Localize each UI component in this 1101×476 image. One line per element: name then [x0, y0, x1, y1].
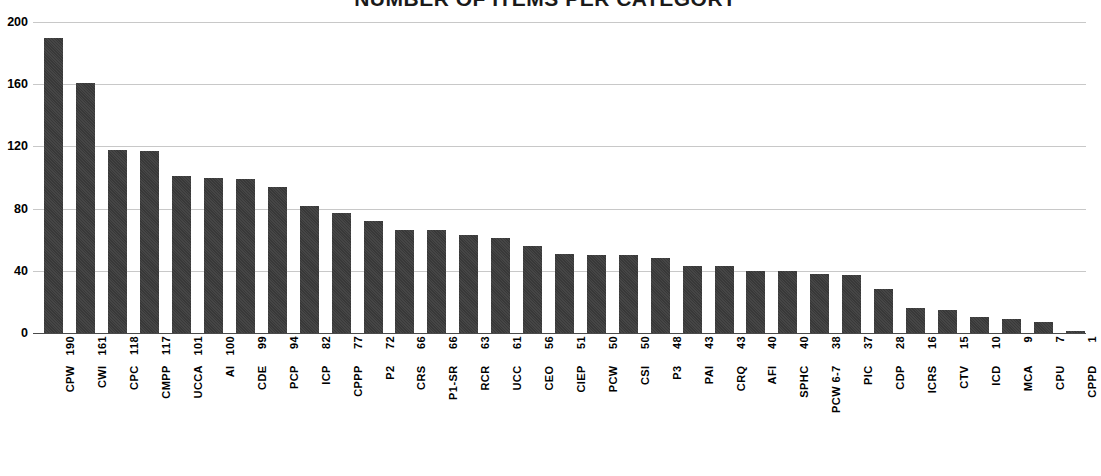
x-axis-tick-label: RCR 63	[475, 336, 495, 466]
bar	[364, 221, 383, 333]
bars-layer	[33, 22, 1086, 333]
chart-title: NUMBER OF ITEMS PER CATEGORY	[0, 0, 1091, 11]
x-axis-tick-label: PCW 50	[603, 336, 623, 466]
x-label-code: P3	[671, 365, 683, 379]
x-label-value: 50	[635, 336, 655, 362]
x-axis-tick-label: UCCA 101	[188, 336, 208, 466]
x-axis-tick-label: CDE 99	[252, 336, 272, 466]
bar	[459, 235, 478, 333]
x-label-value: 82	[316, 336, 336, 362]
x-label-code: AI	[224, 365, 236, 377]
x-axis-tick-label: PAI 43	[699, 336, 719, 466]
x-label-value: 63	[475, 336, 495, 362]
x-label-value: 38	[826, 336, 846, 362]
x-axis-tick-label: SPHC 40	[794, 336, 814, 466]
x-axis-tick-label: CWI 161	[92, 336, 112, 466]
x-axis-tick-label: ICD 10	[986, 336, 1006, 466]
x-label-value: 56	[539, 336, 559, 362]
bar	[555, 254, 574, 333]
x-label-value: 15	[954, 336, 974, 362]
bar	[44, 38, 63, 333]
x-label-value: 161	[92, 336, 112, 362]
x-label-value: 40	[794, 336, 814, 362]
bar	[427, 230, 446, 333]
bar	[906, 308, 925, 333]
y-tick-label: 160	[7, 78, 28, 91]
x-label-code: PAI	[703, 365, 715, 384]
x-label-value: 50	[603, 336, 623, 362]
bar	[778, 271, 797, 333]
x-label-code: CTV	[958, 365, 970, 388]
x-label-value: 37	[858, 336, 878, 362]
x-label-value: 48	[667, 336, 687, 362]
x-label-value: 40	[762, 336, 782, 362]
x-axis-tick-label: ICRS 16	[922, 336, 942, 466]
x-label-code: CPU	[1054, 365, 1066, 389]
bar	[172, 176, 191, 333]
x-label-code: CRQ	[735, 365, 747, 391]
x-label-code: AFI	[766, 365, 778, 384]
x-label-code: CDE	[256, 365, 268, 389]
bar	[108, 150, 127, 333]
x-axis-tick-label: PCW 6-7 38	[826, 336, 846, 466]
x-label-code: CWI	[96, 365, 108, 388]
x-label-value: 190	[60, 336, 80, 362]
x-axis-tick-label: P1-SR 66	[443, 336, 463, 466]
bar	[140, 151, 159, 333]
x-axis-tick-label: CMPP 117	[156, 336, 176, 466]
x-axis-tick-label: CPPD 1	[1082, 336, 1101, 466]
bar	[395, 230, 414, 333]
x-axis-tick-label: UCC 61	[507, 336, 527, 466]
x-label-code: CMPP	[160, 365, 172, 398]
x-axis-tick-label: ICP 82	[316, 336, 336, 466]
x-label-value: 118	[124, 336, 144, 362]
x-label-value: 72	[380, 336, 400, 362]
y-tick-label: 200	[7, 16, 28, 29]
x-label-code: UCC	[511, 365, 523, 390]
x-label-code: ICD	[990, 365, 1002, 385]
bar	[970, 317, 989, 333]
x-axis-tick-label: P3 48	[667, 336, 687, 466]
bar	[1066, 331, 1085, 333]
bar	[268, 187, 287, 333]
bar	[619, 255, 638, 333]
x-label-code: CEO	[543, 365, 555, 390]
x-label-code: CSI	[639, 365, 651, 385]
bar	[715, 266, 734, 333]
bar	[651, 258, 670, 333]
x-axis-tick-label: CPPP 77	[348, 336, 368, 466]
x-axis-tick-label: P2 72	[380, 336, 400, 466]
y-axis: 04080120160200	[0, 0, 33, 476]
bar	[76, 83, 95, 333]
bar	[746, 271, 765, 333]
x-label-code: PCW 6-7	[830, 365, 842, 412]
x-label-value: 43	[731, 336, 751, 362]
plot-area	[33, 22, 1086, 333]
x-label-value: 99	[252, 336, 272, 362]
x-label-code: SPHC	[798, 365, 810, 397]
bar	[683, 266, 702, 333]
x-label-code: PCP	[288, 365, 300, 389]
x-label-value: 94	[284, 336, 304, 362]
x-label-code: CPW	[64, 365, 76, 392]
x-label-code: CRS	[415, 365, 427, 389]
x-label-value: 66	[411, 336, 431, 362]
x-label-code: CDP	[894, 365, 906, 389]
axis-baseline	[33, 333, 1086, 334]
bar	[1002, 319, 1021, 333]
x-axis-tick-label: PIC 37	[858, 336, 878, 466]
y-tick-label: 80	[14, 202, 28, 215]
x-label-value: 61	[507, 336, 527, 362]
x-axis-tick-label: CSI 50	[635, 336, 655, 466]
x-axis-tick-label: CPW 190	[60, 336, 80, 466]
x-axis-tick-label: CIEP 51	[571, 336, 591, 466]
x-axis-tick-label: CTV 15	[954, 336, 974, 466]
x-label-code: CPC	[128, 365, 140, 389]
x-label-code: ICP	[320, 365, 332, 384]
x-axis-tick-label: CDP 28	[890, 336, 910, 466]
x-label-value: 10	[986, 336, 1006, 362]
x-label-value: 117	[156, 336, 176, 362]
x-label-value: 16	[922, 336, 942, 362]
x-label-code: MCA	[1022, 365, 1034, 391]
x-axis-labels: CPW 190CWI 161CPC 118CMPP 117UCCA 101AI …	[33, 336, 1086, 476]
